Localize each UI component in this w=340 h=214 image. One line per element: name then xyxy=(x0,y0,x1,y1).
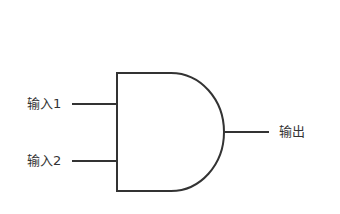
and-gate-body xyxy=(117,73,224,191)
logic-diagram: 输入1 输入2 输出 xyxy=(0,0,340,214)
output-label: 输出 xyxy=(279,124,305,140)
input-1-label: 输入1 xyxy=(27,96,61,112)
input-2-label: 输入2 xyxy=(27,153,61,169)
